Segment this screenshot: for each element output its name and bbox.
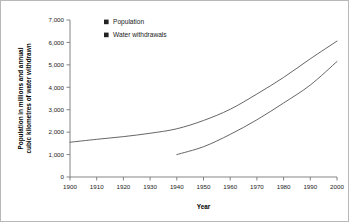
legend-label: Water withdrawals: [113, 31, 167, 38]
x-axis-tick-label: 1930: [143, 183, 157, 190]
y-axis-tick-label: 4,000: [49, 84, 65, 91]
x-axis-tick-label: 1920: [117, 183, 131, 190]
y-axis-tick-label: 3,000: [49, 106, 65, 113]
legend-marker-square-icon: [104, 33, 109, 38]
x-axis-tick-label: 1990: [303, 183, 317, 190]
x-axis-tick-label: 1910: [90, 183, 104, 190]
y-axis-title-line: cubic kilometres of water withdrawn: [25, 43, 32, 153]
chart-figure: 01,0002,0003,0004,0005,0006,0007,0001900…: [0, 0, 349, 222]
y-axis-tick-label: 0: [61, 173, 65, 180]
series-line-population: [70, 41, 337, 142]
series-line-water-withdrawals: [177, 61, 337, 154]
y-axis-tick-label: 5,000: [49, 61, 65, 68]
x-axis-tick-label: 1950: [197, 183, 211, 190]
legend-marker-square-icon: [104, 20, 109, 25]
x-axis-tick-label: 1970: [250, 183, 264, 190]
y-axis-tick-label: 1,000: [49, 151, 65, 158]
x-axis-tick-label: 1900: [63, 183, 77, 190]
chart-canvas: 01,0002,0003,0004,0005,0006,0007,0001900…: [1, 1, 350, 223]
legend-label: Population: [113, 18, 144, 26]
y-axis-tick-label: 7,000: [49, 16, 65, 23]
x-axis-tick-label: 1960: [223, 183, 237, 190]
y-axis-title-line: Population in millions and annual: [17, 47, 25, 149]
x-axis-tick-label: 2000: [330, 183, 344, 190]
y-axis-tick-label: 2,000: [49, 128, 65, 135]
x-axis-tick-label: 1940: [170, 183, 184, 190]
x-axis-title: Year: [197, 203, 211, 210]
x-axis-tick-label: 1980: [277, 183, 291, 190]
y-axis-tick-label: 6,000: [49, 39, 65, 46]
